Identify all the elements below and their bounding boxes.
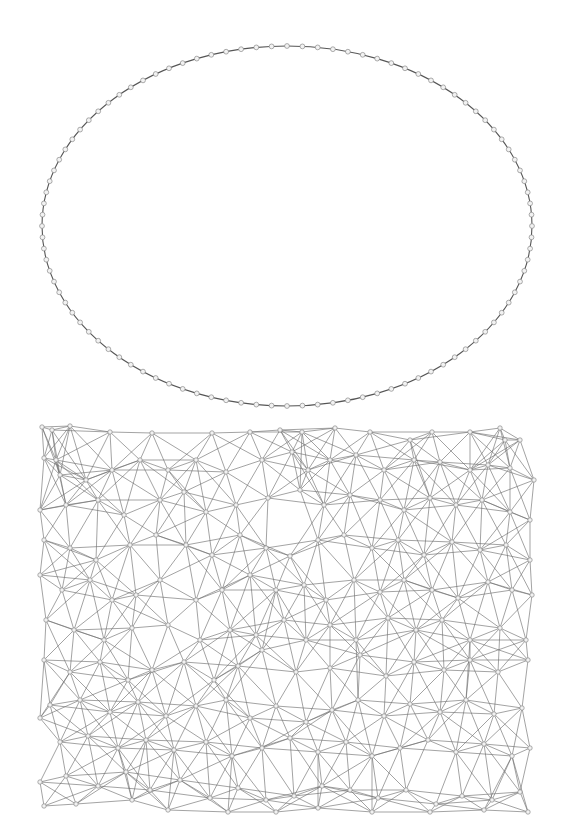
graph-edge — [512, 590, 526, 640]
graph-edge — [40, 460, 56, 510]
graph-edge — [206, 505, 236, 512]
graph-node — [302, 583, 306, 587]
graph-node — [468, 658, 472, 662]
graph-edge — [236, 460, 262, 505]
graph-edge — [128, 628, 132, 680]
graph-edge — [444, 670, 498, 672]
graph-node — [96, 109, 101, 114]
graph-node — [144, 738, 148, 742]
graph-edge — [262, 748, 318, 752]
graph-edge — [462, 744, 484, 796]
graph-edge — [430, 498, 482, 500]
graph-node — [524, 638, 528, 642]
graph-node — [248, 430, 252, 434]
graph-edge — [118, 748, 174, 750]
graph-edge — [346, 742, 350, 790]
graph-edge — [330, 460, 350, 495]
graph-node — [348, 788, 352, 792]
graph-node — [441, 362, 446, 367]
graph-node — [74, 802, 78, 806]
graph-node — [375, 56, 380, 61]
graph-edge — [230, 630, 238, 666]
graph-edge — [168, 470, 206, 512]
graph-edge — [276, 706, 290, 738]
graph-edge — [388, 618, 414, 662]
graph-edge — [168, 625, 184, 662]
graph-node — [106, 100, 111, 105]
graph-edge — [344, 535, 398, 540]
graph-edge — [494, 672, 498, 714]
graph-node — [346, 49, 351, 54]
graph-edge — [290, 738, 294, 796]
graph-edge — [388, 618, 416, 630]
graph-node — [429, 369, 434, 374]
graph-edge — [284, 585, 304, 620]
graph-node — [150, 668, 154, 672]
graph-node — [180, 61, 185, 66]
graph-edge — [238, 666, 276, 706]
graph-edge — [410, 440, 430, 498]
graph-edge — [212, 432, 250, 433]
graph-edge — [384, 716, 400, 748]
graph-node — [209, 52, 214, 57]
graph-edge — [44, 660, 100, 662]
graph-edge — [186, 535, 240, 545]
graph-edge — [168, 798, 210, 810]
graph-edge — [335, 428, 356, 455]
graph-edge — [266, 498, 268, 548]
graph-node — [88, 578, 92, 582]
graph-node — [68, 670, 72, 674]
graph-edge — [330, 640, 356, 668]
graph-edge — [74, 600, 112, 630]
graph-node — [333, 426, 337, 430]
graph-edge — [406, 740, 428, 790]
graph-edge — [398, 498, 430, 540]
graph-edge — [232, 756, 266, 800]
graph-edge — [40, 575, 62, 590]
graph-edge — [346, 700, 358, 742]
graph-edge — [160, 580, 196, 600]
graph-node — [108, 710, 112, 714]
graph-node — [220, 588, 224, 592]
graph-edge — [482, 468, 510, 500]
graph-node — [153, 376, 158, 381]
graph-node — [389, 61, 394, 66]
graph-node — [158, 498, 162, 502]
graph-node — [42, 201, 47, 206]
graph-edge — [156, 535, 160, 580]
graph-node — [128, 85, 133, 90]
graph-edge — [330, 460, 384, 470]
graph-node — [320, 784, 324, 788]
graph-node — [468, 468, 472, 472]
graph-edge — [318, 540, 326, 600]
graph-edge — [262, 748, 294, 796]
graph-edge — [388, 590, 432, 618]
graph-edge — [56, 432, 110, 460]
graph-edge — [76, 786, 98, 804]
graph-node — [528, 518, 532, 522]
graph-node — [304, 720, 308, 724]
graph-edge — [80, 700, 138, 702]
graph-edge — [44, 620, 46, 660]
graph-edge — [350, 756, 372, 790]
graph-edge — [404, 580, 416, 630]
graph-node — [506, 300, 511, 305]
graph-edge — [318, 752, 372, 756]
graph-edge — [70, 545, 130, 548]
graph-node — [328, 458, 332, 462]
graph-node — [260, 648, 264, 652]
graph-node — [58, 473, 62, 477]
graph-node — [42, 456, 46, 460]
mesh-graph-edges — [40, 426, 534, 812]
graph-edge — [380, 592, 416, 630]
graph-edge — [230, 620, 284, 630]
graph-edge — [346, 742, 400, 748]
graph-node — [134, 593, 138, 597]
graph-node — [528, 558, 532, 562]
graph-node — [530, 224, 535, 229]
graph-node — [236, 786, 240, 790]
graph-node — [154, 533, 158, 537]
graph-node — [463, 100, 468, 105]
graph-edge — [410, 670, 444, 704]
graph-edge — [266, 548, 276, 590]
